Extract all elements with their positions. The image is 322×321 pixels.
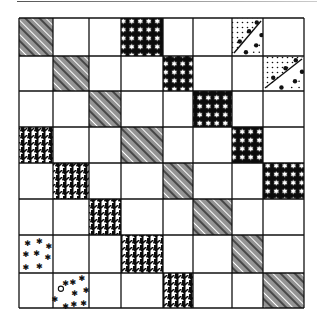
- cell-herringbone: [263, 273, 304, 308]
- svg-text:✱: ✱: [33, 249, 40, 258]
- svg-text:✱: ✱: [62, 302, 69, 311]
- cell-herringbone: [89, 91, 121, 127]
- cell-stars: [121, 18, 163, 56]
- cell-stars: [193, 91, 232, 127]
- cell-houndstooth: [53, 163, 89, 199]
- pattern-cells: ✱✱✱✱✱✱✱✱✱✱✱✱✱✱✱✱✱: [19, 18, 304, 311]
- cell-stars: [232, 127, 263, 163]
- svg-text:✱: ✱: [78, 274, 85, 283]
- svg-text:✱: ✱: [24, 239, 31, 248]
- svg-text:✱: ✱: [36, 262, 43, 271]
- svg-text:✱: ✱: [45, 253, 52, 262]
- svg-text:✱: ✱: [62, 279, 69, 288]
- cell-herringbone: [232, 235, 263, 273]
- cell-houndstooth: [163, 273, 193, 308]
- cell-herringbone: [19, 18, 53, 56]
- svg-text:✱: ✱: [46, 242, 53, 251]
- cell-herringbone: [121, 127, 163, 163]
- cell-dots: [232, 18, 264, 56]
- pattern-grid: ✱✱✱✱✱✱✱✱✱✱✱✱✱✱✱✱✱: [0, 0, 322, 321]
- cell-herringbone: [163, 163, 193, 199]
- svg-text:✱: ✱: [71, 289, 78, 298]
- cell-dots: [263, 56, 304, 91]
- cell-asterisks-circle: ✱✱✱✱✱✱✱✱✱: [51, 273, 89, 311]
- cell-houndstooth: [19, 127, 53, 163]
- svg-text:✱: ✱: [22, 250, 29, 259]
- svg-text:✱: ✱: [22, 263, 29, 272]
- cell-stars: [163, 56, 193, 91]
- cell-herringbone: [193, 199, 232, 235]
- svg-text:✱: ✱: [80, 299, 87, 308]
- cell-stars: [263, 163, 304, 199]
- cell-houndstooth: [89, 199, 121, 235]
- cell-herringbone: [53, 56, 89, 91]
- svg-text:✱: ✱: [36, 237, 43, 246]
- cell-houndstooth: [121, 235, 163, 273]
- svg-text:✱: ✱: [69, 278, 76, 287]
- cell-asterisks: ✱✱✱✱✱✱✱✱: [19, 235, 53, 273]
